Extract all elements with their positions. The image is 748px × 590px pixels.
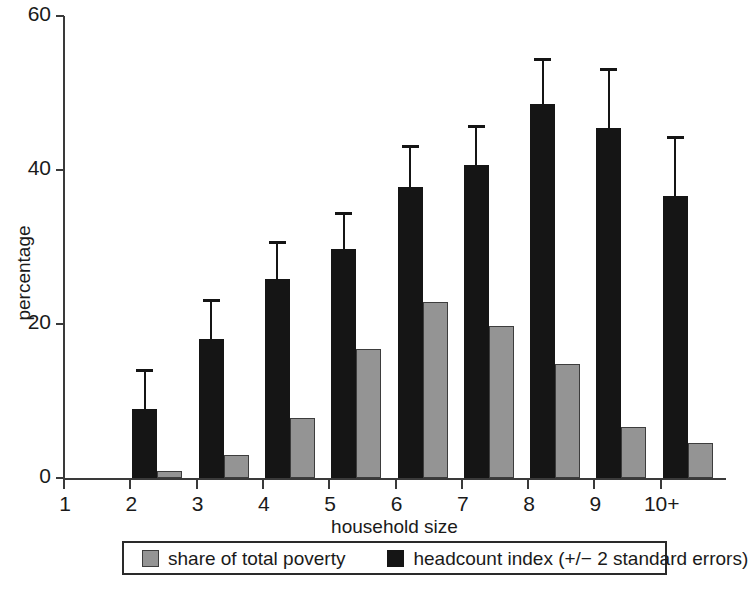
bar-headcount-index-3: [199, 339, 224, 478]
x-tick-mark: [395, 480, 397, 489]
x-tick-label-9: 9: [565, 492, 625, 516]
bar-headcount-index-9: [596, 128, 621, 478]
x-tick-label-5: 5: [300, 492, 360, 516]
bar-share-of-total-poverty-8: [555, 364, 580, 478]
error-bar-stem-6: [409, 145, 411, 187]
x-tick-label-3: 3: [168, 492, 228, 516]
x-tick-mark: [328, 480, 330, 489]
bar-share-of-total-poverty-10+: [688, 443, 713, 478]
legend-label-headcount: headcount index (+/− 2 standard errors): [413, 549, 748, 568]
x-tick-mark: [461, 480, 463, 489]
bar-share-of-total-poverty-9: [621, 427, 646, 478]
error-bar-stem-8: [542, 58, 544, 103]
x-tick-label-8: 8: [499, 492, 559, 516]
y-tick-0: 0: [0, 477, 64, 479]
x-tick-mark: [262, 480, 264, 489]
y-tick-label: 0: [7, 465, 51, 486]
x-tick-mark: [63, 480, 65, 489]
error-bar-cap-3: [203, 299, 220, 302]
x-tick-label-6: 6: [367, 492, 427, 516]
bar-headcount-index-8: [530, 104, 555, 478]
y-tick-mark: [56, 323, 64, 325]
y-axis-line: [63, 16, 65, 479]
error-bar-stem-7: [475, 125, 477, 165]
x-tick-mark: [527, 480, 529, 489]
error-bar-cap-9: [600, 68, 617, 71]
error-bar-cap-10+: [667, 136, 684, 139]
error-bar-cap-4: [269, 241, 286, 244]
chart-legend: share of total poverty headcount index (…: [122, 541, 667, 575]
bar-headcount-index-4: [265, 279, 290, 478]
x-tick-mark: [660, 480, 662, 489]
legend-item-share-of-total-poverty: share of total poverty: [142, 543, 345, 573]
bar-headcount-index-6: [398, 187, 423, 478]
y-tick-label: 20: [7, 311, 51, 332]
bar-share-of-total-poverty-3: [224, 455, 249, 478]
y-tick-label: 40: [7, 157, 51, 178]
y-tick-label: 60: [7, 3, 51, 24]
bar-share-of-total-poverty-6: [423, 302, 448, 478]
x-tick-mark: [196, 480, 198, 489]
y-tick-60: 60: [0, 15, 64, 17]
error-bar-cap-6: [402, 145, 419, 148]
legend-swatch-gray-icon: [142, 550, 159, 567]
x-tick-label-2: 2: [101, 492, 161, 516]
error-bar-stem-5: [343, 212, 345, 248]
x-tick-mark: [129, 480, 131, 489]
legend-swatch-black-icon: [387, 550, 404, 567]
bar-headcount-index-10+: [663, 196, 688, 478]
bar-headcount-index-2: [132, 409, 157, 478]
error-bar-cap-8: [534, 58, 551, 61]
x-tick-label-7: 7: [433, 492, 493, 516]
bar-share-of-total-poverty-7: [489, 326, 514, 478]
x-axis-title: household size: [63, 516, 726, 538]
error-bar-stem-9: [608, 68, 610, 128]
bar-headcount-index-5: [331, 249, 356, 478]
error-bar-stem-3: [210, 299, 212, 338]
bar-headcount-index-7: [464, 165, 489, 478]
x-tick-label-10+: 10+: [632, 492, 692, 516]
error-bar-cap-2: [136, 369, 153, 372]
legend-label-share: share of total poverty: [168, 549, 345, 568]
x-tick-label-1: 1: [35, 492, 95, 516]
x-tick-label-4: 4: [234, 492, 294, 516]
y-tick-20: 20: [0, 323, 64, 325]
x-tick-mark: [593, 480, 595, 489]
bar-share-of-total-poverty-2: [157, 471, 182, 478]
legend-item-headcount-index: headcount index (+/− 2 standard errors): [387, 543, 748, 573]
y-tick-mark: [56, 477, 64, 479]
y-tick-mark: [56, 15, 64, 17]
error-bar-cap-7: [468, 125, 485, 128]
error-bar-stem-10+: [674, 136, 676, 196]
bar-share-of-total-poverty-4: [290, 418, 315, 478]
error-bar-stem-2: [144, 369, 146, 409]
y-tick-40: 40: [0, 169, 64, 171]
error-bar-stem-4: [276, 241, 278, 279]
bar-share-of-total-poverty-5: [356, 349, 381, 478]
y-tick-mark: [56, 169, 64, 171]
error-bar-cap-5: [335, 212, 352, 215]
